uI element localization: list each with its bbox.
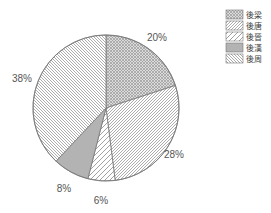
- legend-item: 後唐: [226, 21, 262, 31]
- legend-swatch: [226, 32, 243, 41]
- slice-percent-label: 38%: [12, 73, 32, 84]
- legend-label: 後唐: [246, 21, 262, 31]
- legend-label: 後梁: [246, 10, 262, 20]
- legend-swatch: [226, 43, 243, 52]
- legend-item: 後漢: [226, 43, 262, 53]
- slice-percent-label: 20%: [147, 32, 167, 43]
- pie-slices: [33, 35, 179, 181]
- pie-chart: 20%28%6%8%38% 後梁後唐後晉後漢後周: [0, 0, 271, 213]
- legend-item: 後晉: [226, 32, 262, 42]
- legend-swatch: [226, 21, 243, 30]
- slice-percent-label: 6%: [94, 195, 109, 206]
- legend-swatch: [226, 54, 243, 63]
- slice-percent-label: 8%: [57, 183, 72, 194]
- legend: 後梁後唐後晉後漢後周: [226, 10, 262, 64]
- legend-label: 後周: [246, 54, 262, 64]
- legend-item: 後梁: [226, 10, 262, 20]
- legend-item: 後周: [226, 54, 262, 64]
- legend-label: 後漢: [246, 43, 262, 53]
- slice-percent-label: 28%: [164, 149, 184, 160]
- legend-swatch: [226, 10, 243, 19]
- legend-label: 後晉: [246, 32, 262, 42]
